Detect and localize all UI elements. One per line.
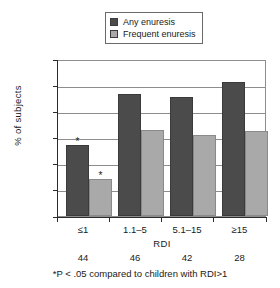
x-category-label-5p1-15: 5.1–15 [161,224,213,235]
bar-any-enuresis-rdi-5p1-15 [170,97,193,216]
legend-swatch-any-enuresis [110,18,118,26]
y-axis-title: % of subjects [12,66,23,166]
legend-swatch-frequent-enuresis [110,30,118,38]
significance-marker-frequent-le1: * [89,172,112,180]
sample-size-5p1-15: 42 [161,252,213,263]
x-tick-4 [266,218,267,222]
significance-marker-any-le1: * [66,138,89,146]
x-category-label-le1: ≤1 [57,224,109,235]
legend-item-frequent-enuresis: Frequent enuresis [110,28,196,40]
y-tick-40 [53,112,58,113]
legend-label-any-enuresis: Any enuresis [123,17,175,28]
y-tick-30 [53,138,58,139]
x-category-label-1p1-5: 1.1–5 [109,224,161,235]
bar-any-enuresis-rdi-ge15 [222,82,245,216]
y-tick-20 [53,164,58,165]
y-axis-line [57,60,58,218]
chart-legend: Any enuresis Frequent enuresis [105,12,203,44]
chart-footnote: *P < .05 compared to children with RDI>1 [0,268,280,279]
bar-frequent-enuresis-rdi-5p1-15 [193,135,216,216]
chart-figure: Any enuresis Frequent enuresis * * [0,0,280,288]
x-tick-0 [57,218,58,222]
x-axis-line [57,217,267,218]
legend-item-any-enuresis: Any enuresis [110,16,196,28]
sample-size-1p1-5: 46 [109,252,161,263]
bar-any-enuresis-rdi-1p1-5 [118,94,141,216]
bar-frequent-enuresis-rdi-ge15 [245,131,268,216]
y-tick-50 [53,86,58,87]
x-tick-2 [161,218,162,222]
bar-any-enuresis-rdi-le1 [66,145,89,216]
y-tick-10 [53,190,58,191]
bar-frequent-enuresis-rdi-le1 [89,179,112,216]
legend-label-frequent-enuresis: Frequent enuresis [123,29,196,40]
bar-frequent-enuresis-rdi-1p1-5 [141,130,164,216]
x-tick-3 [213,218,214,222]
y-tick-60 [53,60,58,61]
x-tick-1 [109,218,110,222]
x-category-label-ge15: ≥15 [213,224,266,235]
sample-size-ge15: 28 [213,252,266,263]
plot-area: * * [57,60,266,217]
sample-size-le1: 44 [57,252,109,263]
x-axis-title: RDI [57,238,267,249]
